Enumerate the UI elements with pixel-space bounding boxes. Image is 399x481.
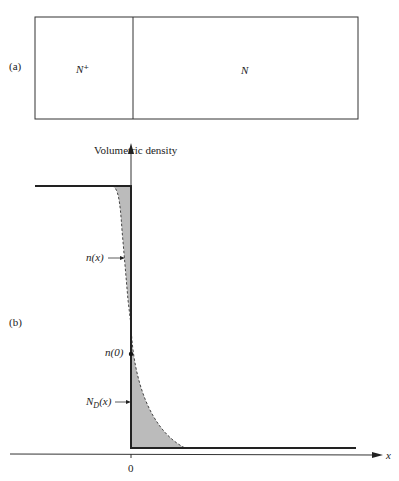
shaded-accumulation-right: [131, 325, 185, 448]
n0-point: [129, 352, 133, 356]
x-tick-label: 0: [128, 462, 134, 474]
panel-b-label: (b): [9, 316, 22, 328]
panel-a-label: (a): [9, 60, 21, 72]
x-axis-label: x: [386, 449, 391, 461]
nd-x-label: ND(x): [86, 395, 111, 410]
x-axis: [10, 454, 376, 455]
n-x-label: n(x): [86, 251, 104, 263]
diagram-canvas: [0, 0, 399, 481]
region-n-label: N: [241, 64, 248, 76]
nd-x-profile: [35, 186, 356, 448]
n0-label: n(0): [105, 346, 123, 358]
shaded-depletion-left: [112, 186, 131, 325]
x-axis-arrow-icon: [372, 452, 383, 458]
y-axis-label: Volumetric density: [94, 144, 177, 156]
region-n-plus-label: N⁺: [76, 63, 89, 76]
